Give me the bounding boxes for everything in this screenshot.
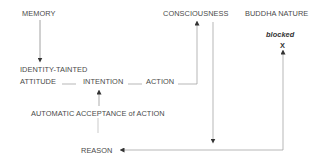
blocked-x-marker: X — [280, 41, 285, 50]
node-attitude: ATTITUDE — [20, 77, 56, 86]
node-buddha-nature: BUDDHA NATURE — [245, 9, 308, 18]
diagram-canvas: MEMORY CONSCIOUSNESS BUDDHA NATURE block… — [0, 0, 329, 163]
node-consciousness: CONSCIOUSNESS — [163, 9, 229, 18]
node-identity-tainted: IDENTITY-TAINTED — [20, 65, 87, 74]
node-action: ACTION — [146, 77, 174, 86]
node-automatic-acceptance: AUTOMATIC ACCEPTANCE of ACTION — [31, 109, 165, 118]
action-to-consciousness-arrow — [178, 23, 197, 84]
blocked-label: blocked — [266, 30, 294, 39]
node-intention: INTENTION — [83, 77, 123, 86]
node-reason: REASON — [81, 146, 113, 155]
node-memory: MEMORY — [22, 9, 55, 18]
